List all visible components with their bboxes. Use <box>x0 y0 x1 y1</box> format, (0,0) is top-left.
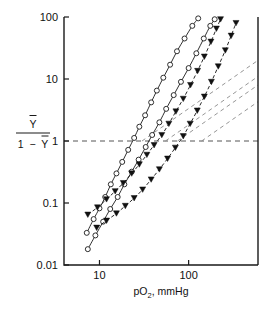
data-point-11 <box>149 100 154 105</box>
data-point-6 <box>148 177 154 182</box>
y-tick-label-4: 100 <box>40 11 58 23</box>
asymptote-low-1 <box>142 60 258 141</box>
data-point-7 <box>156 167 162 172</box>
y-tick-label-2: 1 <box>52 135 58 147</box>
y-axis-denominator: 1 − Y <box>18 138 49 150</box>
data-point-4 <box>115 194 120 199</box>
series-line <box>88 19 221 214</box>
hill-plot-figure: 0.010.111010010100 Y 1 − Y pO2, mmHg <box>0 0 270 317</box>
data-point-15 <box>215 64 221 69</box>
data-point-18 <box>233 20 239 25</box>
data-point-12 <box>194 108 200 113</box>
data-point-18 <box>212 17 217 22</box>
data-point-14 <box>168 62 173 67</box>
y-tick-label-1: 0.1 <box>43 197 58 209</box>
data-point-17 <box>228 33 234 38</box>
x-axis-label-main: pO <box>134 285 148 297</box>
data-point-18 <box>196 16 201 21</box>
data-point-17 <box>213 26 219 31</box>
data-point-7 <box>136 157 141 162</box>
asymptote-low-2 <box>165 76 258 141</box>
y-tick-label-0: 0.01 <box>37 259 58 271</box>
data-point-12 <box>171 93 176 98</box>
x-axis-label-tail: , mmHg <box>152 285 189 297</box>
curve-4-filled-triangle <box>94 20 239 230</box>
data-point-7 <box>126 147 131 152</box>
data-point-8 <box>165 156 171 161</box>
data-point-18 <box>218 17 224 22</box>
data-point-12 <box>154 88 159 93</box>
data-point-14 <box>208 79 214 84</box>
data-point-14 <box>186 66 191 71</box>
data-point-6 <box>120 159 125 164</box>
data-point-9 <box>150 132 155 137</box>
data-point-0 <box>85 212 91 217</box>
x-axis-label: pO2, mmHg <box>134 285 189 300</box>
data-point-1 <box>91 217 96 222</box>
data-point-14 <box>195 68 201 73</box>
y-tick-label-3: 10 <box>46 73 58 85</box>
data-point-17 <box>208 23 213 28</box>
x-tick-label-1: 100 <box>179 269 197 281</box>
data-point-8 <box>132 135 137 140</box>
data-point-9 <box>159 132 165 137</box>
asymptote-low-4 <box>202 102 258 141</box>
data-point-10 <box>157 120 162 125</box>
asymptote-low-3 <box>177 85 258 141</box>
data-point-15 <box>194 51 199 56</box>
data-point-8 <box>151 143 157 148</box>
data-point-9 <box>137 124 142 129</box>
denominator-one: 1 <box>18 138 24 150</box>
x-tick-label-0: 10 <box>93 269 105 281</box>
y-axis-label: Y 1 − Y <box>16 116 50 151</box>
data-point-11 <box>187 121 193 126</box>
data-point-16 <box>182 36 187 41</box>
data-point-12 <box>180 96 186 101</box>
data-series-group <box>84 16 239 252</box>
data-point-13 <box>188 82 194 87</box>
data-point-8 <box>143 145 148 150</box>
data-point-3 <box>108 207 113 212</box>
data-point-10 <box>180 134 186 139</box>
data-point-17 <box>190 23 195 28</box>
denominator-minus: − <box>29 138 35 150</box>
series-line <box>87 18 198 232</box>
curve-3-filled-triangle <box>85 17 224 218</box>
data-point-0 <box>85 247 90 252</box>
curve-2-open-circle <box>85 17 217 252</box>
data-point-11 <box>164 106 169 111</box>
data-point-13 <box>201 94 207 99</box>
data-point-1 <box>93 233 98 238</box>
data-point-0 <box>84 230 89 235</box>
data-point-16 <box>222 48 228 53</box>
data-point-15 <box>201 54 207 59</box>
curve-1-open-circle <box>84 16 200 235</box>
asymptote-group <box>142 60 258 141</box>
data-point-4 <box>108 182 113 187</box>
data-point-16 <box>208 39 214 44</box>
data-point-9 <box>172 145 178 150</box>
data-point-16 <box>201 36 206 41</box>
data-point-15 <box>174 49 179 54</box>
data-point-11 <box>173 109 179 114</box>
hill-plot-svg: 0.010.111010010100 Y 1 − Y pO2, mmHg <box>0 0 270 317</box>
data-point-13 <box>178 79 183 84</box>
data-point-10 <box>143 113 148 118</box>
y-axis-numerator: Y <box>29 118 36 130</box>
data-point-5 <box>114 171 119 176</box>
data-point-13 <box>161 75 166 80</box>
denominator-y: Y <box>41 138 48 150</box>
